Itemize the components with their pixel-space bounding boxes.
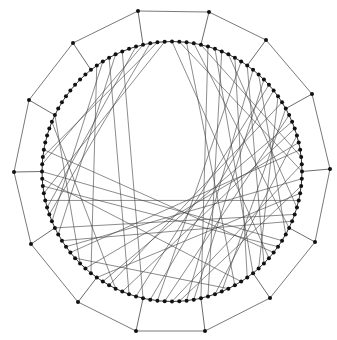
inner-node xyxy=(53,226,57,230)
inner-node xyxy=(287,113,291,117)
inner-node xyxy=(50,219,54,223)
inner-node xyxy=(298,191,302,195)
inner-node xyxy=(68,88,72,92)
inner-node xyxy=(297,141,301,145)
inner-node xyxy=(257,266,261,270)
inner-node xyxy=(95,276,99,280)
inner-node xyxy=(293,127,297,131)
inner-node xyxy=(134,294,138,298)
inner-node xyxy=(148,298,152,302)
chord-edge xyxy=(122,51,143,298)
inner-node xyxy=(60,239,64,243)
inner-node xyxy=(262,78,266,82)
outer-node xyxy=(12,170,16,174)
outer-node xyxy=(134,329,138,333)
inner-node xyxy=(41,155,45,159)
outer-node xyxy=(313,240,317,244)
inner-node xyxy=(245,63,249,67)
inner-node xyxy=(107,56,111,60)
inner-node xyxy=(300,177,304,181)
inner-node xyxy=(83,73,87,77)
inner-ring-nodes xyxy=(40,40,304,304)
inner-node xyxy=(251,271,255,275)
spoke-edge xyxy=(73,43,91,70)
inner-node xyxy=(213,47,217,51)
inner-node xyxy=(89,68,93,72)
inner-node xyxy=(64,94,68,98)
inner-node xyxy=(220,290,224,294)
spoke-edge xyxy=(31,228,55,244)
chord-edge xyxy=(235,58,247,278)
outer-node xyxy=(310,92,314,96)
inner-node xyxy=(280,239,284,243)
spoke-edge xyxy=(302,169,330,172)
inner-node xyxy=(68,251,72,255)
inner-node xyxy=(185,40,189,44)
inner-node xyxy=(177,299,181,303)
chord-edge xyxy=(42,172,282,241)
spoke-edge xyxy=(201,298,205,331)
inner-node xyxy=(56,232,60,236)
inner-node xyxy=(155,299,159,303)
inner-node xyxy=(170,300,174,304)
chord-edge xyxy=(187,70,253,301)
chord-edge xyxy=(136,85,269,297)
inner-node xyxy=(199,296,203,300)
inner-node xyxy=(233,56,237,60)
inner-node xyxy=(272,88,276,92)
inner-node xyxy=(284,107,288,111)
inner-node xyxy=(42,148,46,152)
inner-node xyxy=(206,294,210,298)
inner-node xyxy=(295,205,299,209)
inner-node xyxy=(78,261,82,265)
inner-node xyxy=(148,41,152,45)
inner-node xyxy=(40,162,44,166)
inner-node xyxy=(213,292,217,296)
inner-node xyxy=(267,83,271,87)
inner-node xyxy=(293,212,297,216)
inner-node xyxy=(192,41,196,45)
inner-node xyxy=(299,184,303,188)
inner-node xyxy=(267,256,271,260)
inner-node xyxy=(45,134,49,138)
inner-node xyxy=(297,198,301,202)
outer-node xyxy=(264,38,268,42)
inner-node xyxy=(114,287,118,291)
inner-node xyxy=(155,40,159,44)
inner-node xyxy=(170,40,174,44)
spoke-edge xyxy=(247,40,266,65)
inner-node xyxy=(43,141,47,145)
inner-node xyxy=(83,266,87,270)
inner-node xyxy=(45,205,49,209)
inner-node xyxy=(114,52,118,56)
inner-node xyxy=(47,127,51,131)
inner-node xyxy=(245,276,249,280)
inner-node xyxy=(226,52,230,56)
chord-edge xyxy=(150,90,273,299)
inner-node xyxy=(239,59,243,63)
inner-node xyxy=(163,40,167,44)
outer-node xyxy=(27,98,31,102)
inner-node xyxy=(298,148,302,152)
inner-node xyxy=(284,232,288,236)
inner-node xyxy=(290,120,294,124)
inner-node xyxy=(40,177,44,181)
spoke-edge xyxy=(29,100,55,115)
inner-node xyxy=(276,245,280,249)
inner-node xyxy=(199,43,203,47)
inner-node xyxy=(47,212,51,216)
chord-edge xyxy=(55,115,80,263)
outer-node xyxy=(328,167,332,171)
inner-node xyxy=(127,47,131,51)
inner-node xyxy=(300,170,304,174)
chord-edge xyxy=(165,115,289,301)
spoke-edge xyxy=(136,298,143,331)
inner-node xyxy=(262,261,266,265)
inner-node xyxy=(141,43,145,47)
inner-node xyxy=(185,299,189,303)
inner-node xyxy=(272,251,276,255)
inner-node xyxy=(257,73,261,77)
inner-node xyxy=(73,256,77,260)
chord-edge xyxy=(157,61,241,300)
inner-node xyxy=(78,78,82,82)
